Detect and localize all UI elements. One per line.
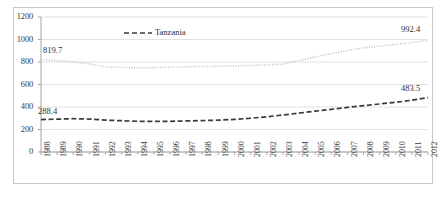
upper-end-value-label: 992.4	[401, 25, 420, 34]
x-axis-tick-label: 1989	[60, 141, 68, 157]
x-axis-tick-label: 1991	[93, 141, 101, 157]
x-axis-tick-label: 2006	[334, 141, 342, 157]
x-axis-tick-label: 2001	[254, 141, 262, 157]
x-axis-tick-label: 2011	[415, 142, 423, 157]
x-axis-tick-label: 2005	[318, 141, 326, 157]
axes-group	[38, 17, 428, 155]
legend-dashed-line-icon	[124, 29, 152, 37]
series-line-upper-dotted-series	[41, 40, 428, 67]
x-axis-tick-label: 1995	[157, 141, 165, 157]
series-lines-group	[41, 40, 428, 121]
x-axis-tick-label: 1992	[109, 141, 117, 157]
y-axis-tick-label: 600	[7, 80, 33, 89]
x-axis-tick-label: 2007	[351, 141, 359, 157]
x-axis-tick-label: 2012	[431, 141, 439, 157]
x-axis-tick-label: 2002	[270, 141, 278, 157]
x-axis-tick-label: 2008	[367, 141, 375, 157]
y-axis-tick-label: 1200	[7, 12, 33, 21]
x-axis-tick-label: 1998	[205, 141, 213, 157]
x-axis-tick-label: 2004	[302, 141, 310, 157]
series-line-Tanzania	[41, 98, 428, 122]
x-axis-tick-label: 2000	[238, 141, 246, 157]
x-axis-tick-label: 1997	[189, 141, 197, 157]
y-axis-tick-label: 1000	[7, 35, 33, 44]
lower-end-value-label: 483.5	[401, 84, 420, 93]
chart-plot-area	[0, 0, 445, 201]
x-axis-tick-label: 1999	[222, 141, 230, 157]
x-axis-tick-label: 1988	[44, 141, 52, 157]
x-axis-tick-label: 1994	[141, 141, 149, 157]
upper-start-value-label: 819.7	[43, 46, 62, 55]
legend-label-tanzania: Tanzania	[155, 28, 186, 37]
x-axis-tick-label: 2003	[286, 141, 294, 157]
x-axis-tick-label: 2009	[383, 141, 391, 157]
chart-figure: 020040060080010001200 198819891990199119…	[0, 0, 445, 201]
chart-legend: Tanzania	[124, 28, 186, 37]
gridlines-group	[41, 17, 428, 152]
x-axis-tick-label: 1990	[76, 141, 84, 157]
y-axis-tick-label: 400	[7, 102, 33, 111]
lower-start-value-label: 288.4	[38, 107, 57, 116]
x-axis-tick-label: 1996	[173, 141, 181, 157]
y-axis-tick-label: 800	[7, 57, 33, 66]
x-axis-tick-label: 1993	[125, 141, 133, 157]
y-axis-tick-label: 0	[7, 147, 33, 156]
y-axis-tick-label: 200	[7, 125, 33, 134]
x-axis-tick-label: 2010	[399, 141, 407, 157]
